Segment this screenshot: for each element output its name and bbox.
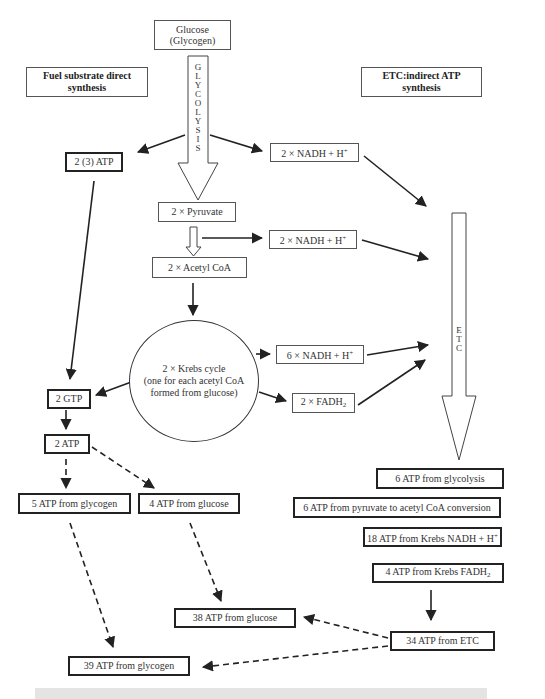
atp-production-diagram: Glucose (Glycogen) Fuel substrate direct… bbox=[0, 0, 545, 699]
acetyl-coa-box: 2 × Acetyl CoA bbox=[152, 257, 247, 278]
footer-bar bbox=[35, 688, 487, 699]
total-glycogen-box: 39 ATP from glycogen bbox=[68, 656, 190, 676]
etc-total-box: 34 ATP from ETC bbox=[390, 631, 495, 651]
pyruvate-arrow bbox=[186, 227, 201, 256]
source-line2: (Glycogen) bbox=[170, 35, 216, 46]
nadh-krebs-box: 6 × NADH + H+ bbox=[276, 345, 364, 364]
etc-label: E T C bbox=[453, 326, 465, 353]
fadh2-krebs-box: 2 × FADH2 bbox=[292, 393, 355, 413]
atp-glycogen-direct-box: 5 ATP from glycogen bbox=[18, 493, 131, 514]
atp-from-gtp-box: 2 ATP bbox=[44, 434, 90, 454]
krebs-line3: formed from glucose) bbox=[150, 387, 237, 399]
etc-pyruvate-box: 6 ATP from pyruvate to acetyl CoA conver… bbox=[293, 497, 501, 518]
header-indirect-synthesis: ETC:indirect ATP synthesis bbox=[361, 67, 482, 97]
header-direct-synthesis: Fuel substrate direct synthesis bbox=[26, 67, 148, 97]
nadh-pyruvate-box: 2 × NADH + H+ bbox=[269, 230, 357, 249]
krebs-line1: 2 × Krebs cycle bbox=[162, 363, 225, 375]
atp-glucose-direct-box: 4 ATP from glucose bbox=[138, 493, 240, 514]
header-indirect-label: ETC:indirect ATP synthesis bbox=[374, 70, 469, 94]
krebs-cycle-circle: 2 × Krebs cycle (one for each acetyl CoA… bbox=[129, 320, 259, 442]
krebs-line2: (one for each acetyl CoA bbox=[144, 375, 245, 387]
glycolysis-label: G L Y C O L Y S I S bbox=[192, 63, 204, 153]
etc-glycolysis-box: 6 ATP from glycolysis bbox=[376, 468, 504, 489]
glucose-glycogen-box: Glucose (Glycogen) bbox=[154, 20, 231, 50]
total-glucose-box: 38 ATP from glucose bbox=[174, 608, 296, 628]
source-line1: Glucose bbox=[176, 24, 209, 35]
pyruvate-box: 2 × Pyruvate bbox=[158, 202, 236, 222]
gtp-box: 2 GTP bbox=[47, 389, 91, 409]
header-direct-label: Fuel substrate direct synthesis bbox=[37, 70, 137, 94]
etc-krebs-nadh-box: 18 ATP from Krebs NADH + H+ bbox=[363, 527, 502, 547]
atp-glycolysis-box: 2 (3) ATP bbox=[65, 152, 123, 172]
etc-krebs-fadh2-box: 4 ATP from Krebs FADH2 bbox=[372, 563, 504, 583]
nadh-glycolysis-box: 2 × NADH + H+ bbox=[270, 143, 359, 162]
